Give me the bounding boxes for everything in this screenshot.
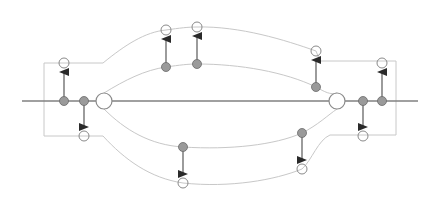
axis-dot <box>378 97 387 106</box>
upper-outer-curve <box>44 27 396 101</box>
right-fixed-point-circle <box>329 93 345 109</box>
curve-dot <box>179 143 188 152</box>
axis-dot <box>80 97 89 106</box>
left-fixed-point-circle <box>96 93 112 109</box>
axis-dot <box>359 97 368 106</box>
curve-dot <box>162 63 171 72</box>
arrows-up <box>64 36 382 101</box>
arrows-down <box>84 101 363 174</box>
target-circle <box>377 58 387 68</box>
curve-dot <box>193 60 202 69</box>
upper-inner-curve <box>104 64 337 94</box>
target-circle <box>358 131 368 141</box>
lower-outer-curve <box>44 101 396 185</box>
orbit-diagram <box>0 0 439 200</box>
axis-dot <box>60 97 69 106</box>
curve-dot <box>312 83 321 92</box>
curve-dot <box>298 129 307 138</box>
